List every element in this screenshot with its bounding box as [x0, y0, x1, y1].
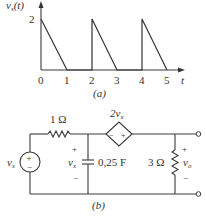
vo-label: vo	[183, 156, 192, 170]
y-tick-2: 2	[29, 13, 35, 25]
resistor2-label: 3 Ω	[148, 156, 164, 168]
dep-source-minus: −	[109, 131, 114, 140]
vo-plus: +	[182, 144, 187, 154]
figure-canvas: vs(t) 2 0 1 2 3 4 5 t (a) − + + − vs	[0, 0, 206, 219]
dep-source-label: 2vx	[110, 107, 124, 121]
output-terminal-top	[196, 132, 201, 137]
source-minus: −	[27, 162, 32, 172]
caption-b: (b)	[92, 199, 105, 212]
waveform-plot: vs(t) 2 0 1 2 3 4 5 t (a)	[6, 0, 185, 100]
caption-a: (a)	[93, 87, 106, 100]
x-tick-5: 5	[164, 74, 170, 86]
y-axis-label: vs(t)	[6, 0, 24, 13]
x-axis-arrow-icon	[178, 68, 185, 73]
x-tick-4: 4	[139, 74, 145, 86]
resistor-3ohm	[172, 150, 178, 175]
x-tick-1: 1	[64, 74, 70, 86]
dep-source-plus: +	[121, 131, 126, 140]
vo-minus: −	[183, 173, 188, 183]
vx-plus: +	[72, 144, 77, 154]
circuit-diagram: − + + − vs 0,25 F + vx − 3 Ω + vo − 1 Ω	[7, 107, 201, 212]
capacitor-label: 0,25 F	[98, 156, 126, 168]
x-tick-3: 3	[114, 74, 120, 86]
x-tick-0: 0	[38, 74, 44, 86]
x-tick-2: 2	[89, 74, 95, 86]
y-axis-arrow-icon	[39, 1, 44, 8]
x-axis-label: t	[181, 74, 185, 86]
sawtooth-waveform	[41, 19, 167, 70]
source-label: vs	[7, 156, 15, 170]
vx-minus: −	[73, 173, 78, 183]
resistor-1ohm	[48, 131, 70, 137]
output-terminal-bottom	[196, 192, 201, 197]
vx-label: vx	[68, 156, 77, 170]
resistor1-label: 1 Ω	[50, 113, 66, 125]
